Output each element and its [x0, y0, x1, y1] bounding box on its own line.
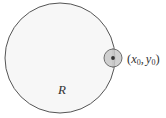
radius-label: R [57, 82, 66, 97]
point-label-comma: , [141, 52, 144, 66]
point-label-close-paren: ) [155, 52, 159, 66]
figure-container: R (x0,y0) [0, 0, 166, 118]
circle-diagram-svg: R (x0,y0) [0, 0, 166, 118]
point-coordinate-label: (x0,y0) [127, 52, 160, 67]
boundary-point-dot [111, 56, 115, 60]
